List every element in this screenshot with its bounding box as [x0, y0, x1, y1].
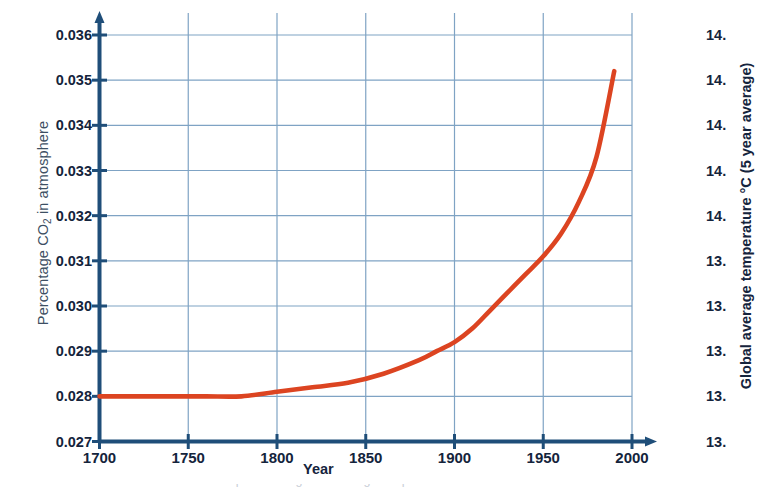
- y-axis-left-tick-label: 0.028: [30, 388, 92, 404]
- co2-curve: [100, 71, 615, 397]
- y-axis-arrowhead: [95, 11, 105, 23]
- x-axis-tick-label: 1800: [260, 449, 293, 466]
- y-axis-right-tick-label: 13.: [706, 298, 726, 314]
- x-axis-tick-label: 1750: [172, 449, 205, 466]
- x-axis-tick-label: 1700: [83, 449, 116, 466]
- clipped-caption: Carbon dioxide in the atmosphere and glo…: [0, 484, 743, 492]
- y-axis-right-tick-label: 13.: [706, 388, 726, 404]
- y-axis-right-tick-label: 13.: [706, 343, 726, 359]
- y-axis-left-title-main: Percentage CO: [35, 224, 51, 325]
- x-axis-tick-label: 1950: [527, 449, 560, 466]
- y-axis-right-title: Global average temperature °C (5 year av…: [738, 6, 754, 446]
- clipped-caption-text: Carbon dioxide in the atmosphere and glo…: [80, 484, 448, 487]
- y-axis-right-tick-label: 14.: [706, 208, 726, 224]
- y-axis-right-tick-label: 14.: [706, 117, 726, 133]
- y-axis-right-tick-label: 14.: [706, 72, 726, 88]
- x-axis-tick-label: 1900: [438, 449, 471, 466]
- y-axis-right-tick-label: 14.: [706, 27, 726, 43]
- y-axis-right-tick-label: 13.: [706, 434, 726, 450]
- x-axis-tick-labels: 1700175018001850190019502000: [0, 449, 743, 473]
- x-axis-arrowhead: [645, 437, 657, 447]
- x-axis-tick-label: 1850: [349, 449, 382, 466]
- y-axis-left-title-subscript: 2: [42, 218, 53, 224]
- y-axis-left-title-tail: in atmosphere: [35, 121, 51, 218]
- y-axis-right-tick-label: 14.: [706, 163, 726, 179]
- x-axis-title: Year: [303, 461, 334, 477]
- y-axis-left-tick-labels: 0.0270.0280.0290.0300.0310.0320.0330.034…: [20, 0, 92, 492]
- x-axis-tick-label: 2000: [615, 449, 648, 466]
- y-axis-right-tick-label: 13.: [706, 253, 726, 269]
- y-axis-left-title: Percentage CO2 in atmosphere: [35, 68, 51, 378]
- y-axis-left-tick-label: 0.027: [30, 434, 92, 450]
- y-axis-left-tick-label: 0.036: [30, 27, 92, 43]
